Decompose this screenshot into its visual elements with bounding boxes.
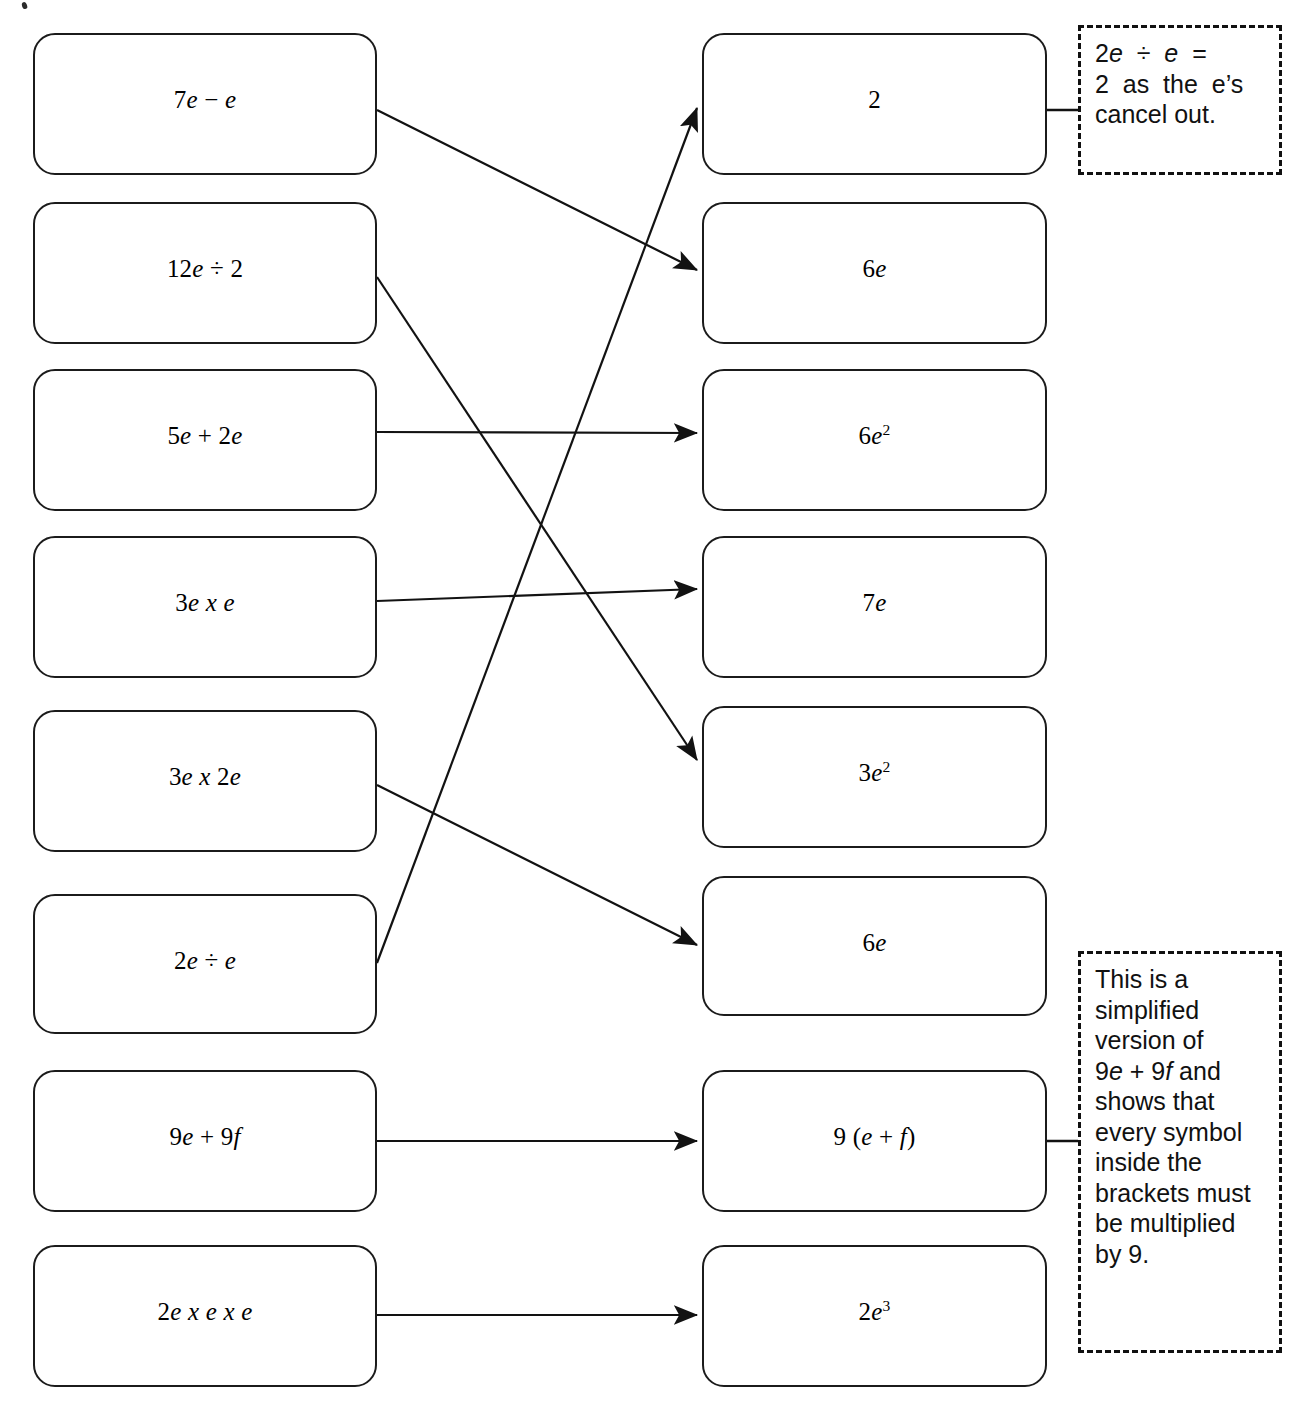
answer-box-right-8[interactable]: 2e3 <box>702 1245 1047 1387</box>
answer-box-right-3[interactable]: 6e2 <box>702 369 1047 511</box>
answer-box-right-4[interactable]: 7e <box>702 536 1047 678</box>
answer-expression: 6e <box>863 204 887 281</box>
term-expression: 9e + 9f <box>169 1072 240 1149</box>
answer-expression: 2 <box>868 35 881 112</box>
term-box-left-5[interactable]: 3e x 2e <box>33 710 377 852</box>
answer-expression: 6e <box>863 878 887 955</box>
note-line: version of <box>1095 1025 1267 1056</box>
note-line: 2e ÷ e = <box>1095 38 1267 69</box>
answer-box-right-1[interactable]: 2 <box>702 33 1047 175</box>
term-box-left-6[interactable]: 2e ÷ e <box>33 894 377 1034</box>
connector-l2-r5 <box>377 277 697 760</box>
connector-l5-r6 <box>377 785 697 945</box>
connector-l1-r2 <box>377 110 697 270</box>
term-expression: 3e x e <box>175 538 235 615</box>
term-expression: 3e x 2e <box>169 712 241 789</box>
answer-box-right-5[interactable]: 3e2 <box>702 706 1047 848</box>
answer-expression: 7e <box>863 538 887 615</box>
callout-note-factorised-form: This is a simplified version of 9e + 9f … <box>1078 951 1282 1353</box>
answer-box-right-6[interactable]: 6e <box>702 876 1047 1016</box>
term-expression: 2e x e x e <box>158 1247 253 1324</box>
connector-l3-r3 <box>377 432 697 433</box>
connector-l4-r4 <box>377 589 697 601</box>
answer-expression: 2e3 <box>859 1247 891 1324</box>
term-box-left-3[interactable]: 5e + 2e <box>33 369 377 511</box>
answer-box-right-2[interactable]: 6e <box>702 202 1047 344</box>
answer-expression: 9 (e + f) <box>834 1072 916 1149</box>
answer-expression: 3e2 <box>859 708 891 785</box>
answer-expression: 6e2 <box>859 371 891 448</box>
note-line: by 9. <box>1095 1239 1267 1270</box>
term-box-left-2[interactable]: 12e ÷ 2 <box>33 202 377 344</box>
note-line: cancel out. <box>1095 99 1267 130</box>
worksheet-canvas: 7e − e 12e ÷ 2 5e + 2e 3e x e 3e x 2e 2e… <box>0 0 1312 1406</box>
answer-box-right-7[interactable]: 9 (e + f) <box>702 1070 1047 1212</box>
note-line: simplified <box>1095 995 1267 1026</box>
term-expression: 5e + 2e <box>167 371 242 448</box>
note-line: 9e + 9f and <box>1095 1056 1267 1087</box>
term-expression: 12e ÷ 2 <box>167 204 243 281</box>
note-line: This is a <box>1095 964 1267 995</box>
connector-l6-r1 <box>377 108 697 963</box>
note-line: brackets must <box>1095 1178 1267 1209</box>
note-line: shows that <box>1095 1086 1267 1117</box>
term-box-left-7[interactable]: 9e + 9f <box>33 1070 377 1212</box>
note-line: be multiplied <box>1095 1208 1267 1239</box>
term-box-left-4[interactable]: 3e x e <box>33 536 377 678</box>
callout-note-divide-cancel: 2e ÷ e = 2 as the e’s cancel out. <box>1078 25 1282 175</box>
term-box-left-8[interactable]: 2e x e x e <box>33 1245 377 1387</box>
note-line: every symbol <box>1095 1117 1267 1148</box>
term-box-left-1[interactable]: 7e − e <box>33 33 377 175</box>
term-expression: 7e − e <box>174 35 237 112</box>
note-line: inside the <box>1095 1147 1267 1178</box>
term-expression: 2e ÷ e <box>174 896 236 973</box>
note-line: 2 as the e’s <box>1095 69 1267 100</box>
